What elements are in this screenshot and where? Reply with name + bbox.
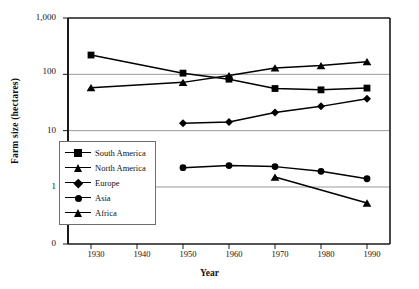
chart-legend: South America North America Europe Asia … [59, 141, 156, 225]
legend-item-south-america[interactable]: South America [60, 145, 155, 160]
legend-label: South America [91, 148, 146, 158]
triangle-marker-icon [65, 207, 91, 218]
legend-label: Asia [91, 193, 111, 203]
legend-item-asia[interactable]: Asia [60, 190, 155, 205]
square-marker-icon [65, 147, 91, 158]
legend-label: Europe [91, 178, 120, 188]
series-africa [271, 173, 372, 206]
circle-marker-icon [65, 192, 91, 203]
series-europe [179, 95, 371, 128]
legend-item-africa[interactable]: Africa [60, 205, 155, 220]
legend-label: Africa [91, 208, 117, 218]
diamond-marker-icon [65, 177, 91, 188]
legend-label: North America [91, 163, 146, 173]
legend-item-europe[interactable]: Europe [60, 175, 155, 190]
triangle-marker-icon [65, 162, 91, 173]
legend-item-north-america[interactable]: North America [60, 160, 155, 175]
chart-figure: Farm size (hectares) 1,000 100 10 1 0 19… [0, 0, 419, 289]
